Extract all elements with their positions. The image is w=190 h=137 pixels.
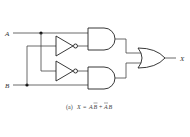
caption-eq: = [83, 104, 87, 110]
and2-to-or-wire [115, 63, 141, 78]
caption-term2-a: A [103, 104, 108, 110]
input-b-label: B [5, 82, 10, 90]
and-gate-2 [88, 67, 115, 89]
caption-prefix: (a) [66, 104, 73, 111]
and1-to-or-wire [115, 39, 141, 53]
caption-term1-a: A [88, 104, 93, 110]
caption-plus: + [99, 104, 103, 110]
caption-lhs: X [76, 104, 81, 110]
logic-circuit-diagram: A B X (a) X = A B + A B [0, 0, 190, 137]
a-branch-wire [41, 33, 56, 71]
b-branch-wire [27, 46, 56, 85]
caption: (a) X = A B + A B [66, 103, 113, 111]
not-gate-2 [56, 61, 78, 81]
input-a-label: A [4, 30, 10, 38]
or-gate [138, 48, 165, 68]
caption-term1-b: B [94, 104, 98, 110]
and-gate-1 [88, 28, 115, 50]
output-x-label: X [179, 55, 185, 63]
not-gate-1 [56, 36, 78, 56]
caption-term2-b: B [109, 104, 113, 110]
